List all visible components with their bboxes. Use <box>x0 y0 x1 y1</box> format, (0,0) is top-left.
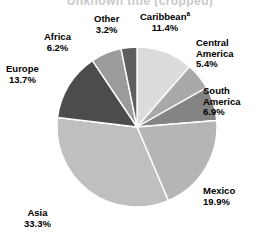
slice-value-mexico: 19.9% <box>203 197 235 208</box>
slice-label-other-text: Other <box>94 13 119 24</box>
slice-value-other: 3.2% <box>94 25 119 36</box>
slice-value-caribbean: 11.4% <box>140 23 190 34</box>
pie-graphic <box>56 46 218 208</box>
slice-label-africa: Africa 6.2% <box>44 32 71 53</box>
slice-label-central-america-line1: Central <box>196 37 229 48</box>
slice-value-asia: 33.3% <box>24 219 51 230</box>
slice-label-caribbean-text: Caribbean <box>140 11 186 22</box>
pie-chart-figure: Unknown title (cropped) Caribbeana 11.4%… <box>0 0 280 250</box>
slice-label-mexico: Mexico 19.9% <box>203 186 235 207</box>
slice-label-asia: Asia 33.3% <box>24 208 51 229</box>
slice-label-europe-text: Europe <box>6 63 39 74</box>
slice-label-asia-text: Asia <box>27 207 47 218</box>
slice-label-central-america: Central America 5.4% <box>196 38 234 70</box>
figure-title-cropped: Unknown title (cropped) <box>0 0 280 7</box>
pie-svg <box>56 46 218 208</box>
slice-value-europe: 13.7% <box>6 75 39 86</box>
slice-label-south-america: South America 6.9% <box>203 86 241 118</box>
slice-value-south-america: 6.9% <box>203 107 241 118</box>
slice-value-africa: 6.2% <box>44 43 71 54</box>
slice-label-africa-text: Africa <box>44 31 71 42</box>
slice-label-caribbean: Caribbeana 11.4% <box>140 12 190 33</box>
slice-label-other: Other 3.2% <box>94 14 119 35</box>
slice-label-south-america-line1: South <box>203 85 230 96</box>
slice-label-europe: Europe 13.7% <box>6 64 39 85</box>
slice-label-mexico-text: Mexico <box>203 185 235 196</box>
slice-label-caribbean-superscript: a <box>186 10 190 17</box>
slice-value-central-america: 5.4% <box>196 59 234 70</box>
